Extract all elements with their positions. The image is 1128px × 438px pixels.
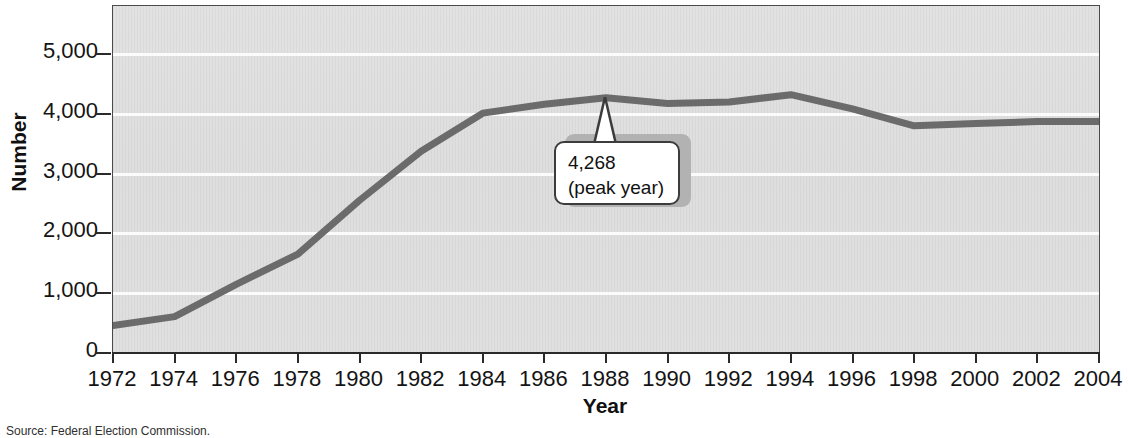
y-axis-tick-label: 2,000 — [12, 217, 98, 243]
x-axis-tick-label: 1998 — [878, 366, 948, 392]
peak-callout-box: 4,268 (peak year) — [554, 141, 680, 205]
x-axis-tick-label: 1980 — [324, 366, 394, 392]
x-axis-tick-label: 1984 — [447, 366, 517, 392]
peak-callout-value: 4,268 — [568, 150, 664, 175]
y-axis-tick-mark — [95, 352, 111, 354]
y-axis-tick-mark — [95, 232, 111, 234]
x-axis-tick-mark — [359, 352, 361, 363]
x-axis-tick-mark — [728, 352, 730, 363]
y-axis-tick-mark — [95, 113, 111, 115]
y-axis-tick-label: 3,000 — [12, 158, 98, 184]
source-note: Source: Federal Election Commission. — [6, 424, 210, 438]
y-axis-tick-label: 5,000 — [12, 38, 98, 64]
y-axis-tick-label: 0 — [12, 337, 98, 363]
x-axis-tick-label: 2004 — [1063, 366, 1128, 392]
x-axis-tick-mark — [235, 352, 237, 363]
y-axis-tick-label: 4,000 — [12, 98, 98, 124]
x-axis-tick-label: 1974 — [139, 366, 209, 392]
x-axis-title: Year — [112, 394, 1098, 418]
x-axis-tick-label: 2002 — [1001, 366, 1071, 392]
peak-callout-text: 4,268 (peak year) — [568, 150, 664, 200]
y-axis-tick-label: 1,000 — [12, 277, 98, 303]
x-axis-tick-label: 1994 — [755, 366, 825, 392]
y-axis-tick-mark — [95, 53, 111, 55]
x-axis-tick-mark — [482, 352, 484, 363]
x-axis-tick-mark — [790, 352, 792, 363]
x-axis-tick-mark — [667, 352, 669, 363]
x-axis-tick-mark — [605, 352, 607, 363]
x-axis-tick-mark — [420, 352, 422, 363]
x-axis-tick-label: 1988 — [570, 366, 640, 392]
x-axis-tick-label: 1982 — [385, 366, 455, 392]
x-axis-tick-mark — [297, 352, 299, 363]
x-axis-tick-mark — [543, 352, 545, 363]
y-axis-tick-mark — [95, 173, 111, 175]
x-axis-tick-mark — [913, 352, 915, 363]
x-axis-tick-label: 1986 — [508, 366, 578, 392]
x-axis-tick-label: 1978 — [262, 366, 332, 392]
x-axis-tick-mark — [174, 352, 176, 363]
x-axis-tick-label: 2000 — [940, 366, 1010, 392]
peak-callout-caption: (peak year) — [568, 175, 664, 200]
y-axis-tick-mark — [95, 292, 111, 294]
x-axis-tick-mark — [1036, 352, 1038, 363]
x-axis-tick-label: 1972 — [77, 366, 147, 392]
x-axis-tick-label: 1992 — [693, 366, 763, 392]
x-axis-tick-mark — [852, 352, 854, 363]
x-axis-tick-mark — [975, 352, 977, 363]
x-axis-tick-label: 1976 — [200, 366, 270, 392]
line-chart-figure: Number 01,0002,0003,0004,0005,000 197219… — [0, 0, 1128, 438]
x-axis-tick-label: 1990 — [632, 366, 702, 392]
x-axis-tick-mark — [112, 352, 114, 363]
x-axis-tick-mark — [1098, 352, 1100, 363]
x-axis-tick-label: 1996 — [817, 366, 887, 392]
